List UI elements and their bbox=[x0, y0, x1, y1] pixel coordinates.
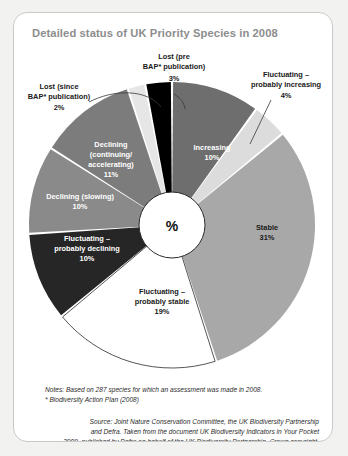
source-line-1: Source: Joint Nature Conservation Commit… bbox=[47, 417, 319, 427]
slice-label-decl-cont-pct: 11% bbox=[104, 170, 119, 179]
notes-block: Notes: Based on 287 species for which an… bbox=[45, 385, 315, 405]
slice-label-stable-line1: Stable bbox=[256, 223, 278, 232]
slice-label-fluct-stable-line1: Fluctuating – bbox=[139, 287, 185, 296]
center-percent-label: % bbox=[166, 218, 179, 234]
callout-lost-since-line1: Lost (since bbox=[39, 82, 78, 91]
callout-fluct-incr-line2: probably increasing bbox=[251, 80, 322, 89]
notes-line-2: * Biodiversity Action Plan (2008) bbox=[45, 395, 315, 405]
slice-label-decl-cont-line2: (continuing/ bbox=[90, 150, 132, 159]
slice-label-decl-cont-line1: Declining bbox=[94, 140, 128, 149]
callout-lost-since-line2: BAP* publication) bbox=[28, 92, 91, 101]
callout-fluct-incr-pct: 4% bbox=[281, 91, 292, 100]
slice-label-fluct-stable-line2: probably stable bbox=[135, 297, 190, 306]
slice-label-fluct-decl-pct: 10% bbox=[80, 254, 95, 263]
slice-label-decl-slow-line1: Declining (slowing) bbox=[46, 192, 114, 201]
notes-line-1: Notes: Based on 287 species for which an… bbox=[45, 385, 315, 395]
callout-lost-since-pct: 2% bbox=[54, 103, 65, 112]
source-block: Source: Joint Nature Conservation Commit… bbox=[47, 417, 319, 442]
callout-label-fluctuating-increasing: Fluctuating – probably increasing 4% bbox=[251, 70, 322, 100]
slice-label-decl-slow-pct: 10% bbox=[73, 202, 88, 211]
slice-label-decl-cont-line3: accelerating) bbox=[88, 160, 134, 169]
callout-label-lost-since-bap: Lost (since BAP* publication) 2% bbox=[28, 82, 91, 112]
slice-label-fluct-decl-line2: probably declining bbox=[54, 244, 120, 253]
slice-label-fluct-decl-line1: Fluctuating – bbox=[64, 234, 110, 243]
source-line-3: 2009, published by Defra on behalf of th… bbox=[47, 437, 319, 442]
callout-label-lost-pre-bap: Lost (pre BAP* publication) 3% bbox=[143, 52, 206, 83]
callout-fluct-incr-line1: Fluctuating – bbox=[263, 70, 309, 79]
slice-label-increasing-pct: 10% bbox=[205, 153, 220, 162]
pie-chart-container: Increasing 10% Stable 31% Fluctuating – … bbox=[14, 37, 331, 387]
source-line-2: and Defra. Taken from the document UK Bi… bbox=[47, 427, 319, 437]
slice-label-fluct-stable-pct: 19% bbox=[155, 307, 170, 316]
chart-card: Detailed status of UK Priority Species i… bbox=[13, 12, 333, 442]
callout-lost-pre-line2: BAP* publication) bbox=[143, 62, 206, 71]
slice-label-stable-pct: 31% bbox=[260, 233, 275, 242]
slice-label-increasing-line1: Increasing bbox=[194, 143, 231, 152]
pie-chart-svg: Increasing 10% Stable 31% Fluctuating – … bbox=[14, 37, 331, 387]
callout-lost-pre-line1: Lost (pre bbox=[158, 52, 190, 61]
callout-lost-pre-pct: 3% bbox=[169, 74, 180, 83]
